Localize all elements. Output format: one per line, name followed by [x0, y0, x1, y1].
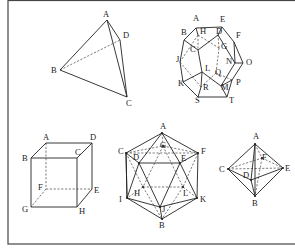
vertex-point-E [282, 167, 284, 169]
vertex-label-K: K [200, 194, 207, 204]
vertex-label-R: R [203, 82, 209, 92]
vertex-label-K: K [178, 78, 185, 88]
vertex-label-F: F [38, 182, 43, 192]
vertex-label-J: J [176, 54, 180, 64]
vertex-label-A: A [103, 9, 110, 19]
edge-IJ [127, 198, 160, 207]
vertex-label-D: D [216, 26, 222, 36]
vertex-label-P: P [236, 77, 241, 87]
edge-JK [160, 198, 197, 207]
edge-KB [162, 198, 197, 219]
vertex-point-B [254, 195, 256, 197]
vertex-point-C [125, 152, 127, 154]
edge-EF [222, 27, 234, 42]
vertex-point-J [159, 206, 161, 208]
vertex-label-I: I [119, 194, 122, 204]
tetrahedron-figure: ABCD [51, 9, 132, 108]
edge-DC [198, 35, 218, 50]
vertex-label-M: M [221, 82, 229, 92]
vertex-label-D: D [133, 152, 139, 162]
hidden-edge-AF [255, 144, 262, 158]
edge-EB [255, 168, 283, 196]
cube-figure: ADBCFEGH [22, 132, 99, 216]
edge-FN [234, 42, 235, 63]
vertex-point-I [126, 197, 128, 199]
vertex-label-C: C [126, 98, 132, 108]
vertex-label-B: B [252, 198, 258, 208]
icosahedron-figure: ACFGDEHLIKJB [118, 121, 207, 230]
vertex-label-B: B [159, 220, 165, 230]
vertex-label-C: C [219, 164, 225, 174]
edge-AH [196, 28, 198, 35]
vertex-label-F: F [262, 152, 267, 162]
edge-AD [139, 133, 162, 163]
vertex-label-A: A [160, 121, 167, 131]
vertex-point-D [250, 179, 252, 181]
vertex-point-D [138, 162, 140, 164]
vertex-label-E: E [220, 14, 225, 24]
vertex-label-H: H [200, 26, 206, 36]
vertex-label-A: A [43, 132, 50, 142]
hidden-edge-BD [60, 40, 120, 70]
edge-CB [228, 169, 255, 196]
vertex-label-E: E [285, 163, 290, 173]
edge-BC [60, 70, 127, 97]
edge-AD [251, 144, 255, 180]
edge-DE [251, 168, 283, 180]
vertex-label-E: E [94, 185, 99, 195]
vertex-label-T: T [229, 95, 235, 105]
hidden-edge-CF [228, 158, 262, 169]
hidden-edge-LB [162, 187, 183, 219]
vertex-label-D: D [243, 170, 249, 180]
edge-AC [228, 144, 255, 169]
edge-AB [31, 143, 46, 158]
edge-LK [183, 72, 202, 82]
edge-DC [120, 40, 127, 97]
vertex-point-C [227, 168, 229, 170]
octahedron-figure: AFCEDB [219, 131, 290, 208]
vertex-label-B: B [51, 65, 57, 75]
vertex-label-N: N [226, 56, 232, 66]
vertex-label-E: E [181, 153, 186, 163]
hidden-edge-GF [163, 146, 198, 153]
solids-group: ABCDAEBFHDCGJNOLQKPRMSTADBCFEGHACFGDEHLI… [22, 9, 290, 230]
vertex-label-H: H [79, 206, 85, 216]
vertex-label-D: D [90, 132, 96, 142]
vertex-label-C: C [75, 147, 81, 157]
vertex-label-G: G [22, 204, 28, 214]
edge-EJ [160, 163, 180, 207]
vertex-label-A: A [253, 131, 260, 141]
dodecahedron-figure: AEBFHDCGJNOLQKPRMST [176, 13, 252, 105]
edge-FK [197, 153, 198, 198]
vertex-label-Q: Q [215, 67, 221, 77]
edge-FO [234, 42, 243, 63]
edge-CI [126, 153, 127, 198]
vertex-label-G: G [160, 140, 166, 150]
vertex-point-A [161, 132, 163, 134]
vertex-label-L: L [205, 63, 210, 73]
vertex-label-L: L [183, 188, 188, 198]
vertex-label-H: H [134, 188, 140, 198]
platonic-solids-diagram: ABCDAEBFHDCGJNOLQKPRMSTADBCFEGHACFGDEHLI… [0, 0, 295, 250]
vertex-label-S: S [195, 95, 200, 105]
edge-CL [198, 50, 202, 72]
edge-AB [60, 20, 107, 70]
vertex-point-K [196, 197, 198, 199]
vertex-label-G: G [221, 41, 227, 51]
edge-AD [107, 20, 120, 40]
edge-AE [255, 144, 283, 168]
vertex-label-B: B [181, 27, 187, 37]
vertex-label-D: D [123, 30, 129, 40]
vertex-point-A [254, 143, 256, 145]
hidden-edge-GH [143, 146, 163, 187]
edge-LR [201, 72, 202, 87]
vertex-label-F: F [236, 30, 241, 40]
hidden-edge-CE [228, 168, 283, 169]
edge-HE [77, 189, 92, 207]
vertex-label-F: F [201, 146, 206, 156]
vertex-label-O: O [246, 57, 252, 67]
vertex-label-C: C [190, 44, 196, 54]
vertex-point-H [142, 186, 144, 188]
vertex-label-B: B [22, 153, 28, 163]
vertex-label-C: C [118, 146, 124, 156]
